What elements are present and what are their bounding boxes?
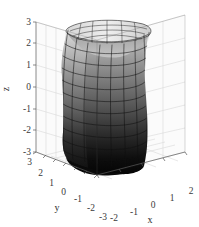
y-tick-label: 0 xyxy=(61,187,66,197)
x-tick-label: 2 xyxy=(189,186,194,196)
y-tick-label: -3 xyxy=(99,212,107,222)
y-tick-label: 3 xyxy=(27,157,32,167)
x-tick-label: 1 xyxy=(170,193,175,203)
x-tick-label: -2 xyxy=(110,213,118,223)
x-tick-label: 0 xyxy=(151,200,156,210)
y-tick-label: 1 xyxy=(49,178,54,188)
surface-plot-3d: 3 2 1 0 -1 -2 -3 3 2 1 0 -1 -2 -3 -2 -1 … xyxy=(0,0,199,227)
z-tick-label: 3 xyxy=(26,17,31,27)
z-tick-label: 1 xyxy=(26,60,31,70)
y-tick-label: 2 xyxy=(38,168,43,178)
x-axis-title: x xyxy=(148,214,153,225)
z-tick-label: 2 xyxy=(26,38,31,48)
x-tick-label: -1 xyxy=(130,207,138,217)
hyperboloid-surface xyxy=(62,20,152,176)
z-tick-labels: 3 2 1 0 -1 -2 -3 xyxy=(23,17,31,157)
z-tick-label: -3 xyxy=(23,147,31,157)
z-tick-marks xyxy=(33,22,36,152)
z-tick-label: -2 xyxy=(23,125,31,135)
z-axis-title: z xyxy=(0,86,11,91)
z-tick-label: -1 xyxy=(23,104,31,114)
y-tick-label: -2 xyxy=(87,203,95,213)
figure-canvas: 3 2 1 0 -1 -2 -3 3 2 1 0 -1 -2 -3 -2 -1 … xyxy=(0,0,199,227)
y-tick-label: -1 xyxy=(74,194,82,204)
z-tick-label: 0 xyxy=(26,82,31,92)
y-axis-title: y xyxy=(55,202,60,213)
